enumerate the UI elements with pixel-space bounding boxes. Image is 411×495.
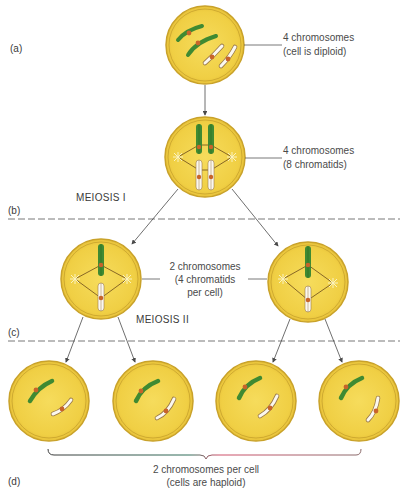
arrow-b-to-c-right: [232, 189, 278, 246]
centrosome-icon: [328, 278, 338, 288]
label-a-line1: 4 chromosomes: [283, 32, 354, 43]
cell-c-left: [61, 239, 141, 319]
panel-tag-d: (d): [8, 476, 20, 487]
label-b-line2: (8 chromatids): [283, 159, 347, 170]
meiosis-diagram: 4 chromosomes (cell is diploid) (a) 4 c: [0, 0, 411, 495]
label-d-line2: (cells are haploid): [167, 477, 246, 488]
grouping-brace: [48, 449, 361, 459]
panel-tag-b: (b): [8, 205, 20, 216]
cell-b-tetrads: [165, 117, 245, 197]
panel-tag-c: (c): [8, 327, 20, 338]
label-c-line1: 2 chromosomes: [169, 261, 240, 272]
centrosome-icon: [278, 274, 288, 284]
cell-c-right: [268, 242, 348, 322]
cell-d-2: [113, 361, 193, 441]
cell-d-3: [216, 361, 296, 441]
centrosome-icon: [122, 274, 132, 284]
label-b-line1: 4 chromosomes: [283, 145, 354, 156]
arrow-b-to-c-left: [132, 189, 178, 244]
panel-tag-a: (a): [10, 43, 22, 54]
stage-label-meiosis-2: MEIOSIS II: [136, 314, 189, 325]
arrow-c-right-to-d4: [325, 319, 342, 362]
centrosome-left-icon: [173, 152, 183, 162]
label-c-line3: per cell): [187, 287, 223, 298]
label-c-line2: (4 chromatids: [175, 274, 236, 285]
centrosome-right-icon: [227, 152, 237, 162]
cell-d-1: [9, 361, 89, 441]
arrow-c-right-to-d3: [273, 319, 290, 362]
stage-label-meiosis-1: MEIOSIS I: [76, 192, 126, 203]
centrosome-icon: [70, 274, 80, 284]
cell-a-diploid: [166, 6, 244, 84]
arrow-c-left-to-d2: [118, 317, 135, 362]
label-d-line1: 2 chromosomes per cell: [153, 464, 259, 475]
arrow-c-left-to-d1: [66, 317, 83, 362]
label-a-line2: (cell is diploid): [283, 46, 346, 57]
cell-d-4: [319, 361, 399, 441]
